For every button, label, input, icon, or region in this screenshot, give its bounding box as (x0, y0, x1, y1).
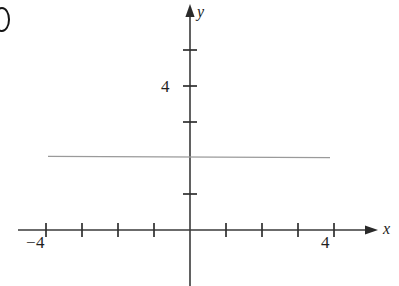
y-tick-label-pos4: 4 (161, 78, 170, 95)
y-axis-arrowhead-icon (185, 4, 194, 17)
x-tick-label-neg4: −4 (26, 234, 45, 251)
x-axis-label: x (383, 221, 390, 237)
graph-figure: y x −4 4 4 (0, 0, 399, 286)
x-axis-arrowhead-icon (365, 225, 378, 234)
x-tick-label-pos4: 4 (321, 234, 330, 251)
y-axis-label: y (197, 4, 204, 20)
data-line-y-equals-2 (48, 156, 330, 157)
coordinate-plane-plot (0, 0, 399, 286)
